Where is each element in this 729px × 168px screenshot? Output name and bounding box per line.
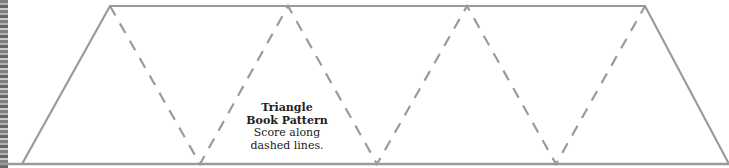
- instruction-line2: dashed lines.: [232, 140, 342, 153]
- triangle-book-pattern: Triangle Book Pattern Score along dashed…: [0, 0, 729, 168]
- pattern-title-line1: Triangle: [232, 102, 342, 115]
- instruction-line1: Score along: [232, 127, 342, 140]
- pattern-drawing: [0, 0, 729, 168]
- fold-lines-dashed: [110, 6, 645, 164]
- outline-solid: [22, 6, 729, 164]
- pattern-caption: Triangle Book Pattern Score along dashed…: [232, 102, 342, 152]
